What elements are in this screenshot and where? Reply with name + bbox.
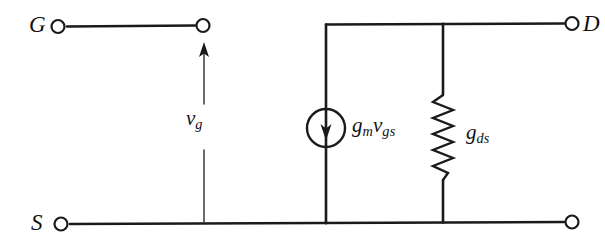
terminal-source-circle[interactable] [55, 218, 68, 231]
label-gm-base: g [352, 113, 363, 137]
terminal-gate-circle[interactable] [52, 20, 65, 33]
label-vg-base: v [186, 106, 195, 130]
terminal-label-source: S [31, 211, 43, 234]
label-conductance: gds [466, 122, 490, 146]
wire-top-rail [326, 24, 564, 25]
label-gm-subscript: m [363, 123, 374, 139]
terminal-label-drain: D [583, 12, 600, 35]
wire-bottom-rail [70, 222, 564, 224]
label-vgs-subscript: gs [382, 123, 395, 139]
terminal-gate-node-circle[interactable] [197, 19, 210, 32]
label-vg-subscript: g [195, 116, 202, 132]
conductance-zigzag-symbol [433, 95, 453, 180]
label-gds-subscript: ds [477, 130, 490, 146]
small-signal-equivalent-circuit-figure: G D S vg gmvgs gds [0, 0, 605, 249]
label-gds-base: g [466, 120, 477, 144]
wire-gate-branch [67, 26, 195, 27]
circuit-schematic-svg [0, 0, 605, 249]
terminal-label-gate: G [29, 13, 46, 36]
terminal-drain-circle[interactable] [566, 17, 579, 30]
label-vgs-base: v [373, 113, 382, 137]
label-gate-voltage: vg [186, 108, 203, 132]
label-current-source: gmvgs [352, 115, 395, 139]
terminal-source-right-circle[interactable] [566, 216, 579, 229]
